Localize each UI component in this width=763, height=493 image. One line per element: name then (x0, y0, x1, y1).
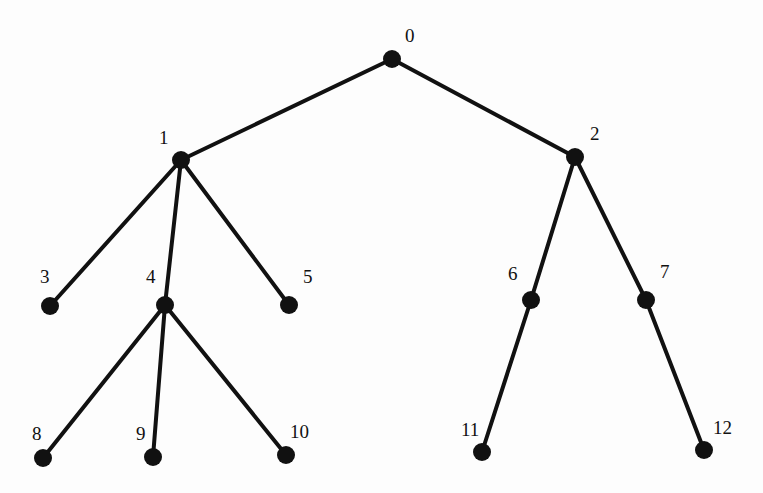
node-label: 11 (461, 420, 479, 439)
node-label: 3 (40, 267, 50, 286)
node-label: 6 (508, 264, 518, 283)
node-0 (383, 50, 401, 68)
edge-7-12 (646, 300, 704, 450)
node-label: 4 (146, 267, 156, 286)
edge-1-4 (165, 160, 181, 305)
node-label: 7 (660, 262, 670, 281)
edge-4-10 (165, 305, 286, 455)
edge-1-3 (50, 160, 181, 306)
node-12 (695, 441, 713, 459)
edge-2-7 (575, 157, 646, 300)
node-label: 2 (590, 124, 600, 143)
node-7 (637, 291, 655, 309)
edge-1-5 (181, 160, 289, 305)
node-1 (172, 151, 190, 169)
tree-diagram: 0123456789101112 (0, 0, 763, 493)
node-2 (566, 148, 584, 166)
node-label: 8 (32, 424, 42, 443)
edge-2-6 (531, 157, 575, 300)
edge-6-11 (482, 300, 531, 452)
tree-graphic (0, 0, 763, 493)
node-label: 12 (713, 418, 732, 437)
node-8 (34, 449, 52, 467)
node-9 (144, 448, 162, 466)
node-label: 1 (159, 128, 169, 147)
node-label: 5 (303, 267, 313, 286)
edge-4-8 (43, 305, 165, 458)
node-5 (280, 296, 298, 314)
edge-4-9 (153, 305, 165, 457)
node-label: 9 (136, 424, 146, 443)
node-10 (277, 446, 295, 464)
node-11 (473, 443, 491, 461)
node-label: 0 (405, 26, 415, 45)
node-4 (156, 296, 174, 314)
node-6 (522, 291, 540, 309)
edge-0-1 (181, 59, 392, 160)
node-3 (41, 297, 59, 315)
node-label: 10 (290, 422, 309, 441)
edge-0-2 (392, 59, 575, 157)
